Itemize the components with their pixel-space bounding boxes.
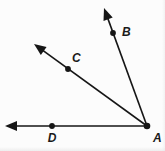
ray-ac-group: C bbox=[34, 44, 147, 126]
point-d-label: D bbox=[48, 131, 57, 145]
ray-ab-group: B bbox=[104, 8, 147, 126]
point-d-dot bbox=[49, 123, 55, 129]
ray-ac-arrowhead bbox=[34, 44, 47, 55]
vertex-a-dot bbox=[144, 123, 151, 130]
figure-canvas: B C D A bbox=[0, 0, 165, 151]
ray-ac-line bbox=[42, 50, 147, 126]
vertex-a-group: A bbox=[144, 123, 162, 145]
ray-ad-group: D bbox=[5, 121, 147, 145]
geometry-figure: B C D A bbox=[0, 0, 165, 151]
vertex-a-label: A bbox=[152, 131, 162, 145]
point-b-dot bbox=[110, 30, 116, 36]
point-c-dot bbox=[65, 66, 71, 72]
point-c-label: C bbox=[72, 51, 81, 65]
ray-ab-arrowhead bbox=[104, 8, 113, 21]
point-b-label: B bbox=[122, 25, 131, 39]
ray-ad-arrowhead bbox=[5, 121, 17, 131]
